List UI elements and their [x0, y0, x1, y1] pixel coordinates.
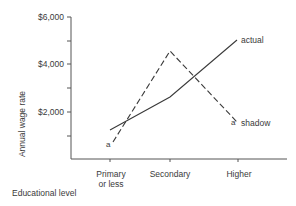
- x-axis: [71, 159, 287, 162]
- x-axis-title: Educational level: [12, 188, 76, 198]
- y-axis-title: Annual wage rate: [17, 91, 27, 157]
- x-tick-primary-line2: or less: [98, 179, 123, 189]
- series-shadow-label: shadow: [241, 118, 271, 128]
- marker-a-primary: a: [106, 140, 111, 149]
- x-tick-primary-line1: Primary: [96, 169, 126, 179]
- x-tick-higher: Higher: [226, 169, 251, 179]
- marker-a-higher: a: [231, 118, 236, 127]
- series-shadow-line: [113, 51, 237, 142]
- y-axis: [67, 17, 71, 159]
- series-actual-label: actual: [241, 35, 264, 45]
- x-tick-secondary: Secondary: [150, 169, 191, 179]
- wage-chart: $6,000 $4,000 $2,000 Annual wage rate Pr…: [0, 0, 296, 206]
- y-tick-6000: $6,000: [38, 12, 64, 22]
- y-tick-4000: $4,000: [38, 59, 64, 69]
- y-tick-2000: $2,000: [38, 107, 64, 117]
